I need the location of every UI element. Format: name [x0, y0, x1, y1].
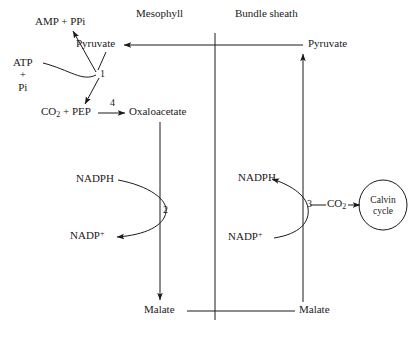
co2-pep-base: CO: [41, 105, 56, 117]
enzyme-label-4: 4: [110, 98, 115, 109]
enzyme-label-2: 2: [163, 205, 168, 216]
curve-nadph-to-nadp-mesophyll: [117, 180, 166, 237]
metabolite-malate-bundle-sheath: Malate: [299, 304, 330, 316]
nadp-mesophyll-base: NADP: [70, 229, 100, 241]
diagram-canvas: Mesophyll Bundle sheath AMP + PPi ATP + …: [0, 0, 413, 343]
metabolite-pyruvate-bundle-sheath: Pyruvate: [308, 38, 347, 50]
pathway-arrows: [0, 0, 413, 343]
compartment-label-mesophyll: Mesophyll: [136, 8, 183, 20]
metabolite-co2-calvin: CO2: [327, 198, 346, 212]
metabolite-oxaloacetate: Oxaloacetate: [129, 106, 186, 118]
metabolite-pi: Pi: [13, 81, 33, 93]
metabolite-atp: ATP: [13, 56, 33, 68]
calvin-cycle-line1: Calvin: [365, 195, 401, 206]
co2-pep-remainder: + PEP: [60, 105, 91, 117]
nadp-bundle-base: NADP: [228, 230, 258, 242]
metabolite-amp-ppi: AMP + PPi: [35, 16, 85, 28]
arrow-to-co2-pep: [85, 78, 99, 104]
calvin-cycle-label: Calvin cycle: [365, 195, 401, 217]
metabolite-nadp-plus-bundle-sheath: NADP+: [228, 231, 262, 243]
enzyme-label-3: 3: [307, 199, 312, 210]
nadp-mesophyll-superscript: +: [100, 229, 104, 238]
metabolite-plus-sign: +: [13, 68, 33, 80]
enzyme-label-1: 1: [100, 69, 105, 80]
co2-calvin-subscript: 2: [342, 202, 346, 211]
metabolite-pyruvate-mesophyll: Pyruvate: [76, 38, 115, 50]
nadp-bundle-superscript: +: [258, 230, 262, 239]
metabolite-nadph-mesophyll: NADPH: [76, 173, 114, 185]
metabolite-nadp-plus-mesophyll: NADP+: [70, 230, 104, 242]
curve-atp-pi-to-enzyme1: [43, 63, 96, 77]
metabolite-nadph-bundle-sheath: NADPH: [238, 172, 276, 184]
metabolite-co2-pep: CO2 + PEP: [41, 106, 91, 120]
calvin-cycle-line2: cycle: [365, 206, 401, 217]
compartment-label-bundle-sheath: Bundle sheath: [235, 8, 298, 20]
metabolite-malate-mesophyll: Malate: [144, 304, 175, 316]
co2-calvin-base: CO: [327, 197, 342, 209]
metabolite-atp-pi: ATP + Pi: [13, 56, 33, 93]
